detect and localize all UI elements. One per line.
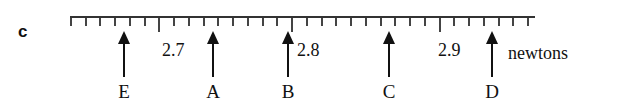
axis-value-label: 2.8 bbox=[297, 41, 320, 59]
axis-tick-minor bbox=[321, 18, 323, 26]
axis-tick-major bbox=[291, 18, 293, 32]
axis-tick-minor bbox=[483, 18, 485, 26]
axis-tick-major bbox=[158, 18, 160, 32]
arrow-shaft bbox=[388, 40, 390, 77]
measurement-arrow-b bbox=[281, 31, 295, 77]
axis-tick-minor bbox=[365, 18, 367, 26]
axis-tick-minor bbox=[85, 18, 87, 26]
point-label-a: A bbox=[201, 82, 225, 101]
axis-tick-minor bbox=[453, 18, 455, 26]
axis-tick-minor bbox=[70, 18, 72, 26]
point-label-e: E bbox=[112, 82, 136, 101]
axis-tick-minor bbox=[276, 18, 278, 26]
axis-tick-minor bbox=[409, 18, 411, 26]
axis-tick-minor bbox=[99, 18, 101, 26]
axis-tick-minor bbox=[527, 18, 529, 26]
axis-tick-minor bbox=[232, 18, 234, 26]
axis-tick-minor bbox=[188, 18, 190, 26]
axis-tick-minor bbox=[468, 18, 470, 26]
measurement-arrow-d bbox=[485, 31, 499, 77]
axis-tick-minor bbox=[350, 18, 352, 26]
axis-value-label: 2.9 bbox=[438, 41, 461, 59]
axis-tick-minor bbox=[424, 18, 426, 26]
unit-label: newtons bbox=[508, 44, 568, 62]
axis-tick-minor bbox=[114, 18, 116, 26]
arrow-shaft bbox=[287, 40, 289, 77]
arrow-shaft bbox=[123, 40, 125, 77]
axis-tick-minor bbox=[144, 18, 146, 26]
axis-tick-minor bbox=[498, 18, 500, 26]
point-label-b: B bbox=[276, 82, 300, 101]
axis-value-label: 2.7 bbox=[162, 41, 185, 59]
axis-line bbox=[70, 16, 535, 18]
axis-tick-minor bbox=[262, 18, 264, 26]
measurement-arrow-a bbox=[206, 31, 220, 77]
axis-tick-minor bbox=[306, 18, 308, 26]
force-scale-figure: c 2.72.82.9newtons EABCD bbox=[0, 0, 619, 105]
axis-tick-major bbox=[439, 18, 441, 32]
point-label-d: D bbox=[480, 82, 504, 101]
axis-tick-minor bbox=[129, 18, 131, 26]
arrow-shaft bbox=[491, 40, 493, 77]
point-label-c: C bbox=[377, 82, 401, 101]
axis-tick-minor bbox=[512, 18, 514, 26]
axis-tick-minor bbox=[394, 18, 396, 26]
axis-tick-minor bbox=[335, 18, 337, 26]
arrow-shaft bbox=[212, 40, 214, 77]
axis-tick-minor bbox=[217, 18, 219, 26]
axis-tick-minor bbox=[380, 18, 382, 26]
axis-tick-minor bbox=[247, 18, 249, 26]
axis-tick-minor bbox=[203, 18, 205, 26]
measurement-arrow-c bbox=[382, 31, 396, 77]
measurement-arrow-e bbox=[117, 31, 131, 77]
axis-tick-minor bbox=[173, 18, 175, 26]
